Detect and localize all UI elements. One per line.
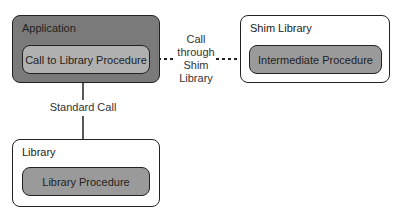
call-to-library-procedure-box: Call to Library Procedure: [22, 45, 150, 74]
standard-call-label: Standard Call: [43, 101, 123, 114]
library-title: Library: [22, 146, 56, 158]
library-procedure-box: Library Procedure: [22, 167, 150, 196]
shim-call-label-line: Library: [176, 72, 216, 85]
application-title: Application: [22, 22, 76, 34]
shim-library-title: Shim Library: [250, 22, 312, 34]
library-box: Library Library Procedure: [12, 139, 160, 207]
shim-call-label-line: through: [176, 46, 216, 59]
application-box: Application Call to Library Procedure: [12, 15, 160, 83]
shim-call-label: Call through Shim Library: [176, 33, 216, 85]
shim-call-label-line: Call: [176, 33, 216, 46]
intermediate-procedure-box: Intermediate Procedure: [249, 45, 382, 74]
shim-library-box: Shim Library Intermediate Procedure: [240, 15, 390, 83]
shim-call-label-line: Shim: [176, 59, 216, 72]
